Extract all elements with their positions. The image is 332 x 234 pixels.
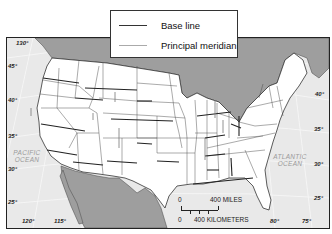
atlantic-ocean-label: ATLANTIC OCEAN xyxy=(268,153,312,167)
base-line-swatch-icon xyxy=(119,25,147,26)
longitude-label-130: 130° xyxy=(16,40,28,46)
legend-item-principal-meridian: Principal meridian xyxy=(119,38,237,52)
principal-meridian-swatch-icon xyxy=(119,45,147,46)
scale-miles-zero: 0 xyxy=(178,196,182,203)
scale-miles-label: 400 MILES xyxy=(210,196,242,203)
latitude-label-30-east: 30° xyxy=(314,161,323,167)
scale-km-zero: 0 xyxy=(178,216,182,223)
latitude-label-30-west: 30° xyxy=(8,166,17,172)
scale-tick xyxy=(208,210,209,214)
map-legend: Base line Principal meridian xyxy=(110,10,238,58)
pacific-ocean-label: PACIFIC OCEAN xyxy=(8,149,46,163)
ocean-label-line: PACIFIC xyxy=(8,149,46,156)
ocean-label-line: OCEAN xyxy=(268,160,312,167)
map-frame xyxy=(6,37,330,229)
scale-tick xyxy=(190,210,191,214)
latitude-label-45-west: 45° xyxy=(8,63,17,69)
us-map-graphic xyxy=(7,38,329,228)
scale-km-label: 400 KILOMETERS xyxy=(194,216,249,223)
ocean-label-line: ATLANTIC xyxy=(268,153,312,160)
latitude-label-40-west: 40° xyxy=(8,97,17,103)
latitude-label-35-east: 35° xyxy=(314,126,323,132)
latitude-label-40-east: 40° xyxy=(315,91,324,97)
latitude-label-25-east: 25° xyxy=(314,195,323,201)
scale-tick xyxy=(218,206,219,210)
scale-tick xyxy=(181,206,182,210)
scale-bar: 0 400 MILES 0 400 KILOMETERS xyxy=(178,196,273,226)
latitude-label-35-west: 35° xyxy=(8,133,17,139)
latitude-label-25-west: 25° xyxy=(8,199,17,205)
legend-label: Base line xyxy=(161,20,200,31)
longitude-label-115: 115° xyxy=(54,218,66,224)
longitude-label-120: 120° xyxy=(22,218,34,224)
legend-label: Principal meridian xyxy=(161,40,237,51)
legend-item-base-line: Base line xyxy=(119,18,200,32)
scale-tick xyxy=(199,210,200,214)
longitude-label-75: 75° xyxy=(302,218,311,224)
ocean-label-line: OCEAN xyxy=(8,156,46,163)
